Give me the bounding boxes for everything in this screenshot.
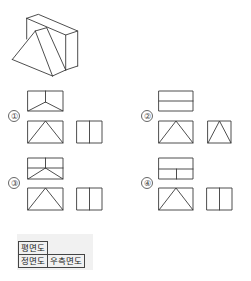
option-4-front-view: [159, 188, 193, 210]
option-1-top-view: [28, 91, 63, 111]
legend-table: 평면도 정면도 우측면도: [18, 241, 85, 268]
option-2-drawing[interactable]: [159, 91, 231, 143]
view-legend: 평면도 정면도 우측면도: [17, 234, 93, 270]
option-1-front-view: [28, 121, 63, 143]
option-2-front-view: [159, 121, 193, 143]
option-4-drawing[interactable]: [159, 158, 232, 210]
option-4-label[interactable]: ④: [141, 177, 153, 189]
option-1-side-view: [77, 121, 102, 143]
option-2-label[interactable]: ②: [141, 110, 153, 122]
option-3-front-view: [28, 188, 63, 210]
option-1-label[interactable]: ①: [8, 110, 20, 122]
legend-right-side-view: 우측면도: [48, 255, 85, 268]
isometric-view: [12, 14, 77, 76]
legend-empty-cell: [48, 242, 85, 255]
option-2-side-view: [208, 121, 231, 143]
option-3-top-view: [28, 158, 63, 179]
option-1-drawing[interactable]: [28, 91, 102, 143]
option-3-label[interactable]: ③: [8, 177, 20, 189]
option-3-side-view: [77, 188, 102, 210]
option-3-drawing[interactable]: [28, 158, 102, 210]
option-2-top-view: [159, 91, 193, 111]
option-4-top-view: [159, 158, 193, 179]
legend-front-view: 정면도: [19, 255, 48, 268]
option-4-side-view: [207, 188, 232, 210]
legend-plan-view: 평면도: [19, 242, 48, 255]
